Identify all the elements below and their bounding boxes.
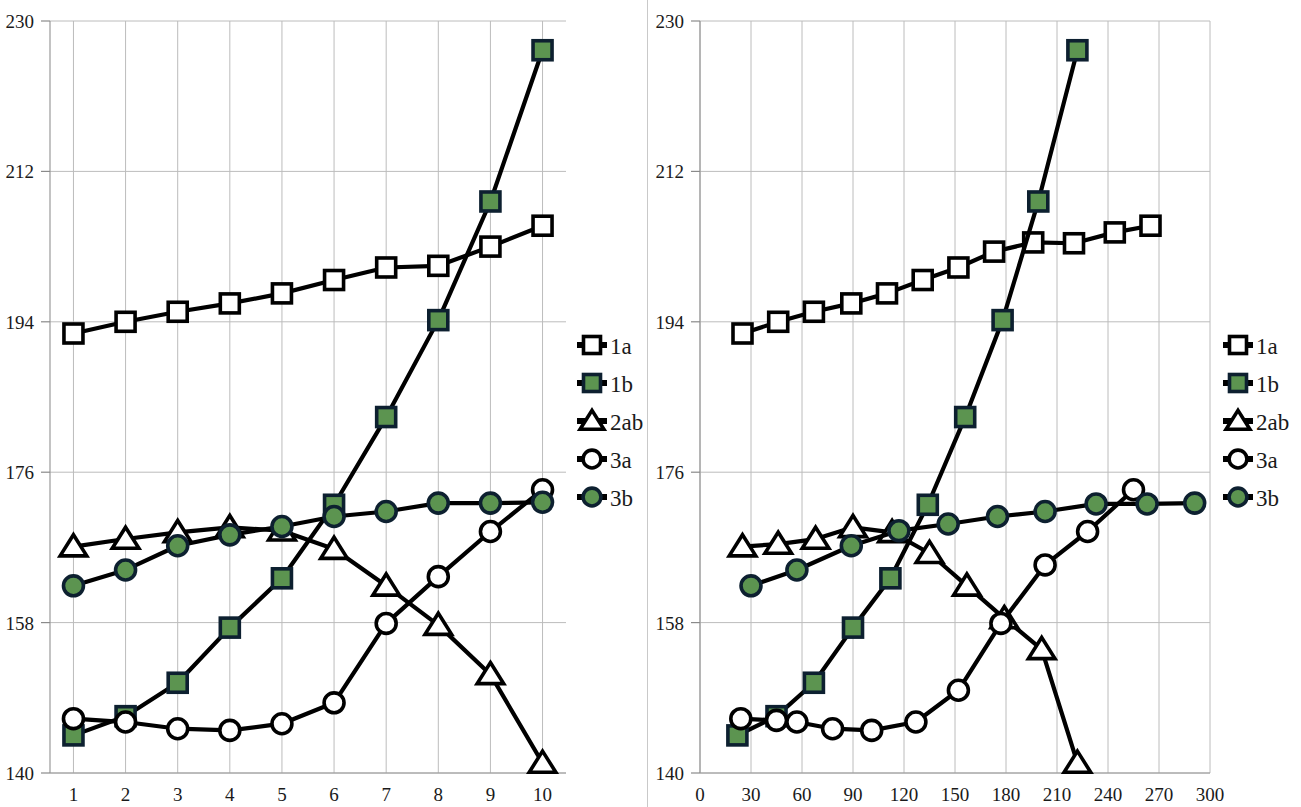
data-point: [918, 495, 937, 514]
data-point: [377, 258, 396, 277]
data-point: [324, 507, 344, 527]
series-1a: [733, 216, 1160, 343]
x-tick-label: 30: [742, 784, 761, 805]
data-point: [272, 517, 292, 537]
series-3a: [63, 480, 552, 741]
series-path: [73, 50, 542, 735]
data-point: [63, 576, 83, 596]
data-point: [889, 521, 909, 541]
data-point: [881, 569, 900, 588]
legend-label-1b: 1b: [610, 372, 633, 397]
data-point: [841, 536, 861, 556]
data-point: [220, 720, 240, 740]
chart-panel-right: 1401581761942122300306090120150180210240…: [648, 0, 1301, 807]
legend-marker-open-triangle: [1223, 410, 1253, 429]
chart-panel-left: 140158176194212230123456789101a1b2ab3a3b: [0, 0, 648, 807]
legend-label-2ab: 2ab: [1256, 410, 1289, 435]
data-point: [116, 560, 136, 580]
legend-label-2ab: 2ab: [610, 410, 643, 435]
data-point: [377, 408, 396, 427]
data-point: [949, 258, 968, 277]
data-point: [985, 242, 1004, 261]
legend-marker-green-square: [577, 375, 607, 392]
x-tick-label: 210: [1043, 784, 1072, 805]
legend-label-3b: 3b: [610, 486, 633, 511]
series-path: [737, 50, 1077, 735]
data-point: [840, 515, 867, 536]
data-point: [878, 284, 897, 303]
data-point: [533, 216, 552, 235]
x-tick-label: 270: [1145, 784, 1174, 805]
data-point: [168, 536, 188, 556]
data-point: [1064, 751, 1091, 772]
legend-label-3a: 3a: [1256, 448, 1278, 473]
data-point: [64, 324, 83, 343]
legend-marker-open-square: [1223, 337, 1253, 354]
chart-figure: 140158176194212230123456789101a1b2ab3a3b…: [0, 0, 1301, 807]
gridlines: [50, 21, 566, 773]
series-1b: [728, 41, 1087, 745]
x-axis-tick-labels: 0306090120150180210240270300: [695, 784, 1224, 805]
legend-label-1a: 1a: [610, 334, 632, 359]
data-point: [862, 720, 882, 740]
data-point: [480, 493, 500, 513]
data-point: [1078, 522, 1098, 542]
y-axis-tick-labels: 140158176194212230: [656, 11, 685, 784]
data-point: [767, 710, 787, 730]
data-point: [804, 302, 823, 321]
x-tick-label: 5: [277, 784, 287, 805]
data-point: [168, 673, 187, 692]
x-tick-label: 6: [329, 784, 339, 805]
y-tick-label: 212: [6, 161, 35, 182]
data-point: [220, 618, 239, 637]
x-tick-label: 7: [381, 784, 391, 805]
legend-label-1b: 1b: [1256, 372, 1279, 397]
legend-marker-green-circle: [577, 488, 607, 506]
data-point: [741, 576, 761, 596]
data-point: [1137, 494, 1157, 514]
y-tick-label: 230: [6, 11, 35, 32]
data-point: [429, 256, 448, 275]
x-tick-label: 9: [486, 784, 496, 805]
chart-legend: 1a1b2ab3a3b: [577, 334, 643, 511]
data-point: [842, 294, 861, 313]
data-point: [823, 719, 843, 739]
x-tick-label: 0: [695, 784, 705, 805]
y-tick-label: 212: [656, 161, 685, 182]
y-axis-tick-labels: 140158176194212230: [6, 11, 35, 784]
x-tick-label: 10: [533, 784, 552, 805]
data-point: [220, 294, 239, 313]
y-tick-label: 194: [6, 312, 35, 333]
x-tick-label: 90: [844, 784, 863, 805]
data-point: [480, 522, 500, 542]
series-path: [73, 490, 542, 731]
data-point: [481, 237, 500, 256]
data-point: [1065, 234, 1084, 253]
y-tick-label: 158: [656, 613, 685, 634]
data-point: [428, 493, 448, 513]
data-point: [1086, 494, 1106, 514]
series-2ab: [60, 515, 556, 772]
data-point: [481, 192, 500, 211]
legend-marker-green-circle: [1223, 488, 1253, 506]
legend-marker-open-circle: [577, 450, 607, 468]
data-point: [1035, 555, 1055, 575]
x-tick-label: 8: [434, 784, 444, 805]
data-point: [116, 712, 136, 732]
data-point: [906, 712, 926, 732]
x-tick-label: 240: [1094, 784, 1123, 805]
data-point: [533, 41, 552, 60]
chart-legend: 1a1b2ab3a3b: [1223, 334, 1289, 511]
data-point: [376, 613, 396, 633]
data-point: [272, 714, 292, 734]
legend-marker-open-square: [577, 337, 607, 354]
data-point: [116, 312, 135, 331]
data-point: [272, 569, 291, 588]
axes: [691, 21, 1210, 773]
y-tick-label: 140: [6, 763, 35, 784]
legend-label-1a: 1a: [1256, 334, 1278, 359]
data-point: [1141, 216, 1160, 235]
series-2ab: [729, 515, 1090, 772]
chart-canvas-left: 140158176194212230123456789101a1b2ab3a3b: [0, 0, 648, 807]
legend-marker-green-square: [1223, 375, 1253, 392]
